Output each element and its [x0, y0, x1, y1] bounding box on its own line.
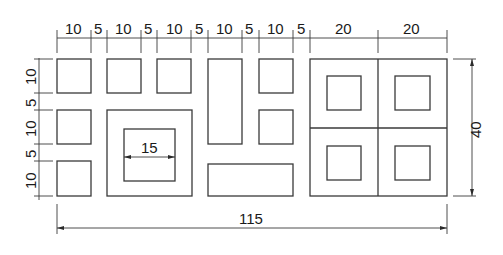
- dim-top-11: 20: [335, 20, 352, 37]
- dim-top-5: 10: [166, 20, 183, 37]
- dim-left-2: 5: [22, 99, 39, 107]
- opening-small: [157, 59, 191, 93]
- dim-inner-width: 15: [141, 139, 158, 156]
- right-dimension: 40: [453, 59, 484, 196]
- left-dimension-chain: 10 5 10 5 10: [22, 58, 53, 200]
- dim-left-3: 10: [22, 120, 39, 137]
- dim-top-12: 20: [403, 20, 420, 37]
- dim-left-4: 5: [22, 150, 39, 158]
- inner-dimension: 15: [124, 139, 175, 159]
- dim-left-5: 10: [22, 172, 39, 189]
- opening-wide: [208, 164, 293, 196]
- opening-small: [57, 110, 91, 144]
- dim-bottom-width: 115: [239, 210, 263, 227]
- opening-small: [259, 110, 293, 144]
- dim-top-9: 10: [267, 20, 284, 37]
- dim-top-1: 10: [65, 20, 82, 37]
- dim-left-1: 10: [22, 68, 39, 85]
- bottom-dimension: 115: [57, 204, 447, 234]
- technical-drawing: 10 5 10 5 10 5 10 5 10 5 20 20 10 5 10 5…: [0, 0, 503, 255]
- opening-small: [57, 161, 91, 196]
- dim-top-6: 5: [195, 20, 203, 37]
- opening-tall: [208, 59, 242, 144]
- top-dimension-chain: 10 5 10 5 10 5 10 5 10 5 20 20: [57, 20, 447, 53]
- opening-small: [57, 59, 91, 93]
- opening-small: [259, 59, 293, 93]
- dim-top-4: 5: [144, 20, 152, 37]
- opening-small: [107, 59, 141, 93]
- dim-top-3: 10: [115, 20, 132, 37]
- dim-top-8: 5: [245, 20, 253, 37]
- grid-block-2x2: [310, 59, 447, 196]
- dim-right-height: 40: [467, 121, 484, 138]
- dim-top-10: 5: [297, 20, 305, 37]
- dim-top-2: 5: [94, 20, 102, 37]
- dim-top-7: 10: [216, 20, 233, 37]
